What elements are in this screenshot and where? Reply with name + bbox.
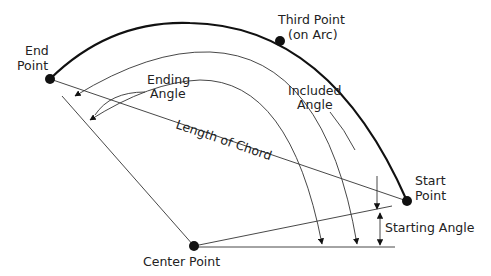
ending-angle-label-2: Angle xyxy=(150,86,186,101)
diagram-svg: End Point Third Point (on Arc) Ending An… xyxy=(0,0,491,276)
third-point-label-2: (on Arc) xyxy=(288,27,338,42)
included-angle-label-1: Included xyxy=(288,83,341,98)
center-point-dot xyxy=(189,241,199,251)
length-of-chord-label: Length of Chord xyxy=(174,117,274,164)
end-point-label-2: Point xyxy=(17,58,48,73)
starting-angle-label: Starting Angle xyxy=(385,220,475,235)
third-point-label-1: Third Point xyxy=(277,12,345,27)
end-radius-line xyxy=(62,96,194,246)
arc-diagram: End Point Third Point (on Arc) Ending An… xyxy=(0,0,491,276)
center-point-label: Center Point xyxy=(143,254,220,269)
end-point-dot xyxy=(45,74,55,84)
start-radius-line xyxy=(194,206,392,246)
start-point-label-2: Point xyxy=(415,188,446,203)
third-point-dot xyxy=(275,36,285,46)
ending-angle-leader xyxy=(95,92,145,115)
ending-angle-label-1: Ending xyxy=(147,72,190,87)
end-point-label-1: End xyxy=(25,43,49,58)
start-point-dot xyxy=(402,196,412,206)
start-point-label-1: Start xyxy=(415,173,446,188)
included-angle-label-2: Angle xyxy=(297,97,333,112)
included-angle-leader xyxy=(330,112,355,150)
included-angle-arc xyxy=(75,52,357,244)
